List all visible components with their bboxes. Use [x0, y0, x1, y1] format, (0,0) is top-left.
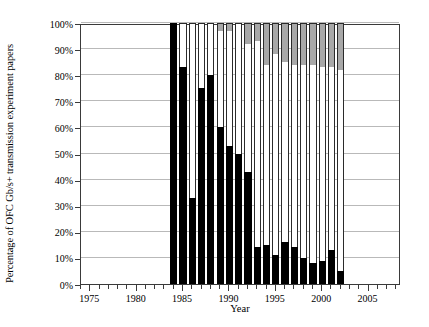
bar-segment-white — [291, 65, 298, 248]
bar-segment-white — [328, 67, 335, 250]
bar-1991 — [235, 23, 242, 284]
bar-segment-white — [235, 23, 242, 154]
tick-mark — [293, 285, 294, 289]
tick-mark — [99, 285, 100, 289]
bar-segment-black — [281, 242, 288, 284]
x-axis-title: Year — [80, 303, 400, 314]
tick-mark — [173, 285, 174, 289]
bar-segment-gray — [254, 23, 261, 41]
tick-mark — [340, 285, 341, 289]
bar-1998 — [300, 23, 307, 284]
plot-area — [80, 24, 400, 285]
tick-mark — [228, 285, 229, 291]
bar-segment-gray — [272, 23, 279, 54]
tick-mark — [154, 285, 155, 289]
bar-1984 — [170, 23, 177, 284]
bar-segment-black — [170, 23, 177, 284]
bar-segment-white — [254, 41, 261, 247]
bar-segment-white — [337, 70, 344, 271]
bar-segment-black — [328, 250, 335, 284]
tick-mark — [238, 285, 239, 289]
bar-1992 — [244, 23, 251, 284]
tick-mark — [191, 285, 192, 289]
bar-2002 — [337, 23, 344, 284]
bar-1987 — [198, 23, 205, 284]
tick-mark — [126, 285, 127, 289]
tick-mark — [108, 285, 109, 289]
bar-segment-gray — [319, 23, 326, 67]
bar-segment-gray — [226, 23, 233, 31]
bar-2000 — [319, 23, 326, 284]
tick-mark — [330, 285, 331, 289]
bar-segment-white — [207, 23, 214, 75]
bar-segment-white — [226, 31, 233, 146]
bar-1986 — [189, 23, 196, 284]
chart-figure: Percentage of OFC Gb/s+ transmission exp… — [0, 0, 429, 327]
bar-segment-white — [281, 62, 288, 242]
tick-mark — [117, 285, 118, 289]
tick-mark — [321, 285, 322, 291]
bar-segment-black — [179, 67, 186, 284]
tick-mark — [145, 285, 146, 289]
bar-1990 — [226, 23, 233, 284]
tick-mark — [395, 285, 396, 289]
tick-mark — [219, 285, 220, 289]
tick-mark — [89, 285, 90, 291]
bar-segment-gray — [309, 23, 316, 65]
tick-mark — [312, 285, 313, 289]
tick-mark — [256, 285, 257, 289]
tick-mark — [136, 285, 137, 291]
bar-series — [81, 25, 399, 284]
bar-segment-white — [319, 67, 326, 260]
bar-segment-black — [207, 75, 214, 284]
bar-segment-white — [263, 65, 270, 245]
tick-mark — [358, 285, 359, 289]
bar-segment-black — [309, 263, 316, 284]
tick-mark — [303, 285, 304, 289]
bar-1999 — [309, 23, 316, 284]
bar-segment-gray — [300, 23, 307, 65]
tick-mark — [182, 285, 183, 291]
tick-mark — [368, 285, 369, 291]
bar-1997 — [291, 23, 298, 284]
bar-1985 — [179, 23, 186, 284]
bar-segment-black — [300, 258, 307, 284]
tick-mark — [284, 285, 285, 289]
tick-mark — [377, 285, 378, 289]
bar-1996 — [281, 23, 288, 284]
bar-segment-black — [272, 255, 279, 284]
bar-segment-black — [263, 245, 270, 284]
bar-1989 — [217, 23, 224, 284]
tick-mark — [80, 285, 81, 289]
bar-1995 — [272, 23, 279, 284]
bar-segment-white — [189, 23, 196, 198]
bar-2001 — [328, 23, 335, 284]
tick-mark — [201, 285, 202, 289]
bar-segment-gray — [244, 23, 251, 44]
bar-segment-black — [254, 247, 261, 284]
bar-segment-black — [226, 146, 233, 284]
bar-segment-black — [291, 247, 298, 284]
tick-mark — [210, 285, 211, 289]
bar-segment-black — [217, 127, 224, 284]
bar-segment-white — [198, 23, 205, 88]
bar-1994 — [263, 23, 270, 284]
bar-segment-gray — [281, 23, 288, 62]
bar-1988 — [207, 23, 214, 284]
tick-mark — [247, 285, 248, 289]
tick-mark — [266, 285, 267, 289]
tick-mark — [163, 285, 164, 289]
bar-segment-gray — [263, 23, 270, 65]
bar-segment-black — [337, 271, 344, 284]
bar-segment-black — [244, 172, 251, 284]
bar-segment-black — [189, 198, 196, 284]
tick-mark — [275, 285, 276, 291]
bar-segment-black — [319, 261, 326, 284]
bar-segment-black — [235, 154, 242, 285]
bar-segment-white — [179, 23, 186, 67]
bar-segment-gray — [328, 23, 335, 67]
tick-mark — [349, 285, 350, 289]
y-axis-ticks: 0%10%20%30%40%50%60%70%80%90%100% — [0, 24, 80, 285]
bar-segment-white — [272, 54, 279, 255]
bar-segment-white — [244, 44, 251, 172]
